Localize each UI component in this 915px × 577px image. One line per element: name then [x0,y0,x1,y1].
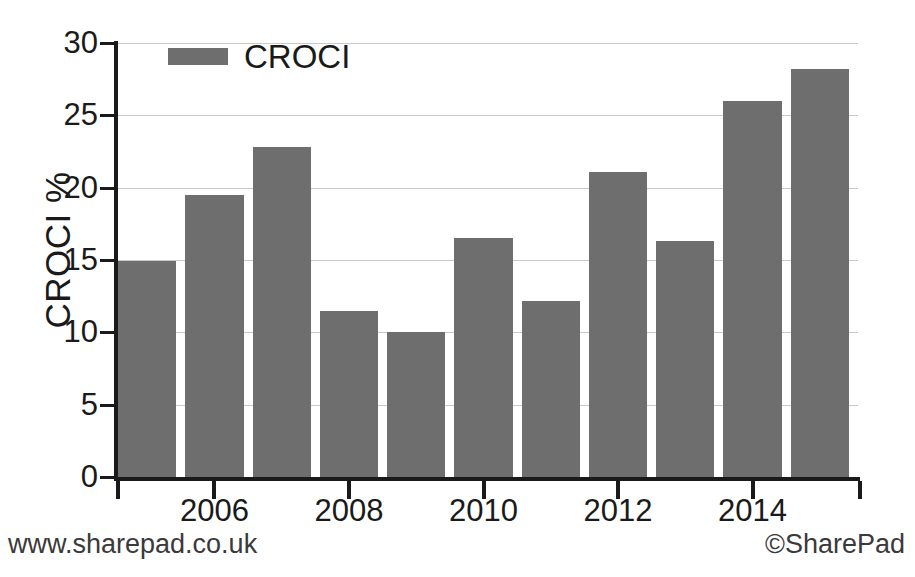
bar [118,261,176,477]
y-tick-label: 25 [42,99,98,130]
x-tick-label: 2006 [154,495,274,526]
footer-website-text: www.sharepad.co.uk [8,531,257,558]
bar [253,147,311,477]
y-tick-label: 0 [42,461,98,492]
x-tick-label: 2012 [558,495,678,526]
footer-copyright-text: ©SharePad [765,531,905,558]
y-tick-mark [100,114,115,117]
bar [454,238,512,477]
y-tick-mark [100,476,115,479]
x-tick-label: 2014 [693,495,813,526]
y-tick-label: 15 [42,244,98,275]
gridline [118,477,858,478]
bar [387,332,445,477]
x-tick-label: 2010 [424,495,544,526]
y-tick-label: 5 [42,389,98,420]
x-axis-end-tick [858,481,862,499]
legend-label-croci: CROCI [244,40,350,73]
chart-container: CROCI % 051015202530 2006200820102012201… [0,0,915,577]
y-tick-mark [100,42,115,45]
bar [185,195,243,477]
y-tick-label: 20 [42,172,98,203]
y-tick-mark [100,259,115,262]
y-tick-mark [100,404,115,407]
bar [723,101,781,477]
plot-area [118,43,858,477]
legend-swatch-croci [168,48,228,65]
chart-legend: CROCI [168,40,350,73]
y-tick-label: 30 [42,27,98,58]
y-tick-label: 10 [42,316,98,347]
bar [656,241,714,477]
y-axis-tick-labels: 051015202530 [38,0,98,577]
y-tick-mark [100,331,115,334]
bar [791,69,849,477]
x-tick-label: 2008 [289,495,409,526]
bar [589,172,647,477]
y-tick-mark [100,187,115,190]
bar [320,311,378,477]
x-axis-end-tick [116,481,120,499]
bar [522,301,580,477]
